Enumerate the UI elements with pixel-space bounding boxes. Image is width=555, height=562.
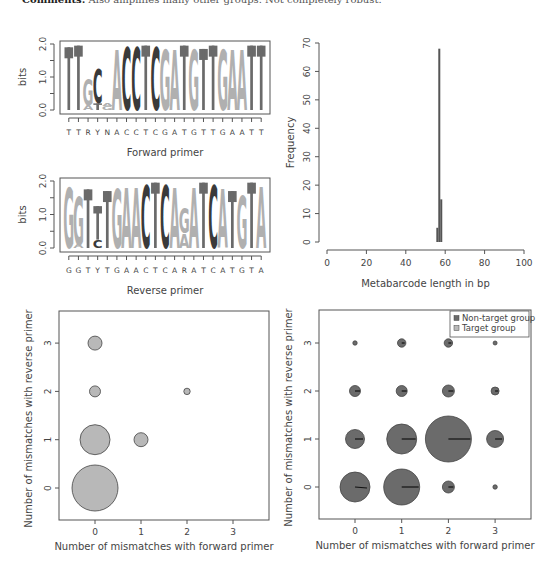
y-tick-label: 70 xyxy=(302,37,312,49)
y-tick-label: 2.0 xyxy=(38,37,48,52)
logo-letter-A: A xyxy=(237,33,247,129)
sequence-label: T xyxy=(85,266,91,275)
sequence-label: N xyxy=(104,128,110,137)
y-tick-label: 0.0 xyxy=(38,241,48,256)
x-tick-label: 2 xyxy=(446,526,452,536)
sequence-label: T xyxy=(152,266,158,275)
svg-text:A: A xyxy=(218,174,228,266)
sequence-label: T xyxy=(229,266,235,275)
logo-letter-T xyxy=(74,46,83,110)
logo-letter-T xyxy=(228,191,237,248)
logo-letter-T xyxy=(84,189,93,248)
sequence-label: A xyxy=(191,266,197,275)
y-tick-label: 60 xyxy=(302,65,312,77)
sequence-label: A xyxy=(124,266,130,275)
x-tick-label: 3 xyxy=(230,527,236,537)
y-axis-title: bits xyxy=(17,68,28,86)
legend: Non-target groupTarget group xyxy=(450,311,535,337)
svg-text:C: C xyxy=(160,168,170,269)
bubble xyxy=(350,386,361,397)
x-axis-title: Metabarcode length in bp xyxy=(361,278,490,289)
sequence-label: A xyxy=(259,266,265,275)
x-axis-title: Number of mismatches with forward primer xyxy=(54,541,274,552)
bubble xyxy=(88,336,102,350)
y-tick-label: 0 xyxy=(302,239,312,245)
svg-text:A: A xyxy=(112,33,122,129)
logo-letter-G: G xyxy=(236,183,247,265)
bubble xyxy=(491,387,499,395)
sequence-label: A xyxy=(114,128,120,137)
logo-letter-T xyxy=(209,46,218,110)
svg-text:C: C xyxy=(131,32,141,130)
logo-letter-C: C xyxy=(131,32,141,130)
sequence-label: T xyxy=(258,128,264,137)
x-tick-label: 60 xyxy=(439,258,451,268)
y-axis-title: bits xyxy=(17,205,28,223)
y-tick-label: 3 xyxy=(303,340,313,346)
logo-letter-T xyxy=(247,183,256,248)
x-tick-label: 1 xyxy=(138,527,144,537)
logo-letter-T xyxy=(141,46,150,110)
histogram-bar xyxy=(440,199,442,242)
bubble xyxy=(346,430,365,449)
histogram-bar xyxy=(438,49,440,242)
sequence-label: G xyxy=(66,266,72,275)
x-axis-title: Reverse primer xyxy=(127,285,205,296)
reverse-primer-logo: 0.01.02.0bitsGGAGGTCYTGGAAAACCTCCAAAGRAA… xyxy=(17,168,270,296)
y-tick-label: 1.0 xyxy=(38,207,48,222)
svg-text:G: G xyxy=(188,33,199,129)
logo-letter-C: C xyxy=(122,32,132,130)
sequence-label: C xyxy=(143,266,148,275)
sequence-label: G xyxy=(76,266,82,275)
y-axis-title: Frequency xyxy=(285,117,296,169)
y-tick-label: 2.0 xyxy=(38,174,48,189)
y-tick-label: 30 xyxy=(302,151,312,163)
sequence-label: A xyxy=(134,266,140,275)
bubble xyxy=(442,385,454,397)
sequence-label: A xyxy=(239,128,245,137)
logo-letter-T xyxy=(257,46,266,110)
sequence-label: T xyxy=(248,266,254,275)
y-tick-label: 40 xyxy=(302,122,312,134)
sequence-label: A xyxy=(220,266,226,275)
sequence-label: R xyxy=(182,266,187,275)
x-axis-title: Forward primer xyxy=(127,147,205,158)
bubble xyxy=(398,339,406,347)
x-tick-label: 20 xyxy=(361,258,373,268)
bubble xyxy=(72,465,118,511)
x-tick-label: 2 xyxy=(184,527,190,537)
x-tick-label: 3 xyxy=(492,526,498,536)
sequence-label: G xyxy=(239,266,245,275)
x-axis-title: Number of mismatches with forward primer xyxy=(315,540,535,551)
sequence-label: G xyxy=(162,128,168,137)
y-axis-title: Number of mismatches with reverse primer xyxy=(23,308,34,527)
bubble xyxy=(184,388,190,394)
logo-letter-T xyxy=(151,183,160,248)
bubble xyxy=(493,485,497,489)
x-tick-label: 0 xyxy=(352,526,358,536)
target-mismatch-bubble-chart: 01230123Number of mismatches with forwar… xyxy=(23,308,274,552)
logo-letter-T xyxy=(93,206,102,240)
logo-letter-A: A xyxy=(218,174,228,266)
x-tick-label: 1 xyxy=(399,526,405,536)
logo-letter-T xyxy=(199,49,208,110)
bubble xyxy=(396,386,407,397)
svg-text:G: G xyxy=(236,183,247,265)
y-tick-label: 0.0 xyxy=(38,103,48,118)
x-tick-label: 100 xyxy=(515,258,532,268)
logo-letter-G: G xyxy=(188,33,199,129)
sequence-label: A xyxy=(172,128,178,137)
sequence-label: C xyxy=(162,266,167,275)
y-tick-label: 50 xyxy=(302,94,312,106)
logo-letter-T xyxy=(103,191,112,248)
logo-letter-A: A xyxy=(112,33,122,129)
metabarcode-length-histogram: 010203040506070Frequency020406080100Meta… xyxy=(285,37,533,289)
sequence-label: A xyxy=(230,128,236,137)
bubble xyxy=(387,424,417,454)
logo-letter-T xyxy=(65,47,74,110)
bubble xyxy=(80,425,110,455)
sequence-label: T xyxy=(66,128,72,137)
bubble xyxy=(340,472,370,502)
sequence-label: G xyxy=(114,266,120,275)
sequence-label: Y xyxy=(94,266,100,275)
